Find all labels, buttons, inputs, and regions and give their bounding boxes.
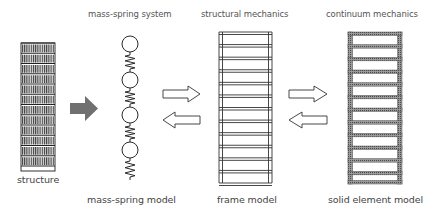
arrow-left-outline-icon [163, 112, 200, 128]
diagram-canvas [0, 0, 444, 218]
mass-spring-figure [122, 36, 138, 180]
label-frame-model: frame model [217, 194, 277, 205]
solid-element-model-figure [348, 32, 402, 184]
label-structure: structure [17, 174, 59, 185]
frame-model-figure [219, 32, 272, 186]
arrow-right-outline-icon [289, 86, 327, 102]
arrow-right-filled-icon [70, 96, 98, 121]
label-mass-spring-model: mass-spring model [87, 194, 176, 205]
structure-figure [21, 43, 55, 171]
label-structural-mechanics: structural mechanics [201, 9, 288, 19]
label-mass-spring-system: mass-spring system [88, 9, 172, 19]
arrow-right-outline-icon [163, 86, 200, 102]
label-solid-element-model: solid element model [328, 194, 423, 205]
arrow-left-outline-icon [289, 112, 327, 128]
label-continuum-mechanics: continuum mechanics [326, 9, 418, 19]
